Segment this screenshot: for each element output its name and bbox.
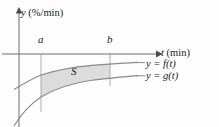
- t-axis-label: t (min): [161, 48, 190, 59]
- curve-label-f: y = f(t): [146, 59, 176, 70]
- region-label-s: S: [71, 66, 77, 77]
- figure-canvas: [0, 0, 219, 127]
- lower-limit-label-a: a: [38, 34, 44, 45]
- curve-label-g: y = g(t): [146, 71, 178, 82]
- y-axis-label: y (%/min): [21, 8, 63, 19]
- upper-limit-label-b: b: [107, 34, 113, 45]
- area-between-curves-figure: y (%/min) t (min) a b S y = f(t) y = g(t…: [0, 0, 219, 127]
- curve-g: [14, 76, 138, 126]
